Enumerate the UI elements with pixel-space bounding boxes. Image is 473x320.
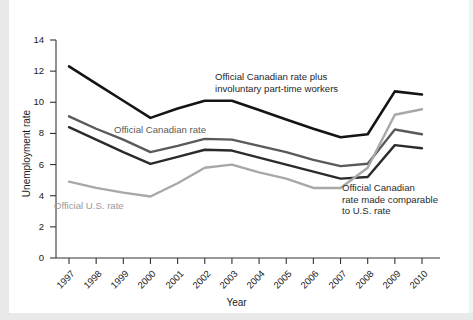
y-tick-label: 2 <box>26 221 44 232</box>
x-axis-ticks <box>69 258 422 264</box>
y-axis-ticks <box>50 40 56 258</box>
x-axis-title: Year <box>0 297 473 308</box>
annot-us: Official U.S. rate <box>54 200 124 212</box>
y-tick-label: 14 <box>26 34 44 45</box>
y-tick-label: 12 <box>26 65 44 76</box>
annot-comparable: Official Canadian rate made comparable t… <box>342 182 438 217</box>
y-tick-label: 0 <box>26 252 44 263</box>
y-axis-title: Unemployment rate <box>21 94 32 214</box>
chart-figure: 02468101214 1997199819992000200120022003… <box>0 0 473 320</box>
annot-black: Official Canadian rate plus involuntary … <box>215 71 338 94</box>
annot-canadian: Official Canadian rate <box>114 124 206 136</box>
